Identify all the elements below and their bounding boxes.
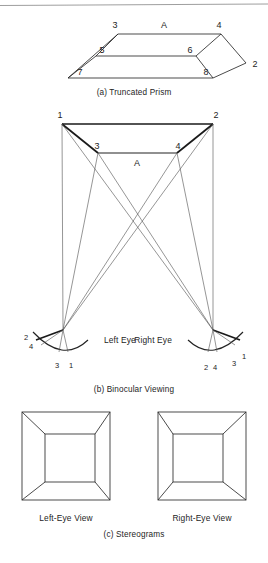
left-stereogram-inner-square	[45, 434, 95, 482]
prism-edge-2-4	[221, 34, 246, 63]
left-retina-label-4: 4	[29, 342, 33, 351]
left-retina-label-2: 2	[24, 333, 28, 342]
right-stereogram-inner-square	[173, 434, 223, 482]
binocular-label-3: 3	[94, 141, 99, 151]
prism-edge-8-2	[213, 63, 246, 78]
right-retina-label-1: 1	[242, 352, 246, 361]
right-retina-label-4: 4	[213, 363, 217, 372]
panel-a-caption: (a) Truncated Prism	[97, 88, 172, 97]
stereogram-right-eye-view: Right-Eye View	[158, 412, 246, 523]
stereogram-left-eye-view: Left-Eye View	[22, 412, 110, 523]
right-eye-label: Right Eye	[134, 335, 172, 345]
right-retina-label-2: 2	[204, 363, 208, 372]
left-stereogram-diagonal-tr	[95, 412, 110, 434]
prism-label-6: 6	[187, 45, 192, 55]
left-stereogram-diagonal-bl	[22, 482, 45, 500]
right-retina-label-3: 3	[232, 359, 236, 368]
panel-b-binocular-viewing: 1 2 3 4 A Left Eye 2 4 3 1	[24, 110, 246, 394]
left-retina-label-1: 1	[69, 361, 73, 370]
prism-edge-4-6	[196, 34, 221, 56]
sightline-1-to-left-eye	[62, 124, 63, 330]
sightline-4-to-left-eye	[63, 153, 177, 330]
right-stereogram-diagonal-tl	[158, 412, 173, 434]
right-eye-image-ray-4	[213, 330, 217, 352]
left-eye-retina-arc	[33, 332, 88, 350]
left-eye-image-ray-outer	[36, 330, 63, 340]
right-eye-view-label: Right-Eye View	[172, 513, 232, 523]
panel-c-stereograms: Left-Eye View Right-Eye View (c) Stereog…	[22, 412, 246, 539]
left-eye-image-ray-3	[59, 330, 63, 352]
panel-c-caption: (c) Stereograms	[104, 530, 165, 539]
sightline-3-to-left-eye	[63, 153, 98, 330]
left-stereogram-diagonal-br	[95, 482, 110, 500]
prism-label-7: 7	[77, 67, 82, 77]
right-stereogram-diagonal-br	[223, 482, 246, 500]
scan-artifact-line	[0, 4, 268, 6]
right-eye-image-ray-outer	[213, 330, 240, 340]
prism-label-A: A	[161, 20, 167, 30]
prism-label-3: 3	[112, 20, 117, 30]
prism-label-5: 5	[99, 45, 104, 55]
panel-a-truncated-prism: 3 A 4 5 6 2 7 8 (a) Truncated Prism	[68, 20, 258, 97]
prism-label-8: 8	[203, 67, 208, 77]
left-eye-group: Left Eye 2 4 3 1	[24, 330, 136, 370]
left-retina-label-3: 3	[55, 361, 59, 370]
right-stereogram-diagonal-tr	[223, 412, 246, 434]
left-eye-view-label: Left-Eye View	[39, 513, 93, 523]
right-eye-group: Right Eye 2 4 3 1	[134, 330, 246, 372]
binocular-label-1: 1	[57, 110, 62, 120]
left-eye-image-ray-1	[63, 330, 68, 352]
left-eye-label: Left Eye	[104, 335, 136, 345]
right-stereogram-diagonal-bl	[158, 482, 173, 500]
prism-label-4: 4	[216, 20, 221, 30]
figure-root: 3 A 4 5 6 2 7 8 (a) Truncated Prism	[0, 0, 268, 563]
binocular-label-2: 2	[213, 110, 218, 120]
sightline-4-to-right-eye	[177, 153, 213, 330]
right-eye-image-ray-2	[208, 330, 213, 352]
prism-label-2: 2	[252, 59, 257, 69]
binocular-label-A: A	[134, 158, 140, 168]
left-stereogram-diagonal-tl	[22, 412, 45, 434]
sightline-3-to-right-eye	[98, 153, 213, 330]
figure-canvas: 3 A 4 5 6 2 7 8 (a) Truncated Prism	[0, 0, 268, 563]
binocular-label-4: 4	[175, 141, 180, 151]
right-eye-retina-arc	[188, 332, 243, 350]
panel-b-caption: (b) Binocular Viewing	[94, 385, 175, 394]
